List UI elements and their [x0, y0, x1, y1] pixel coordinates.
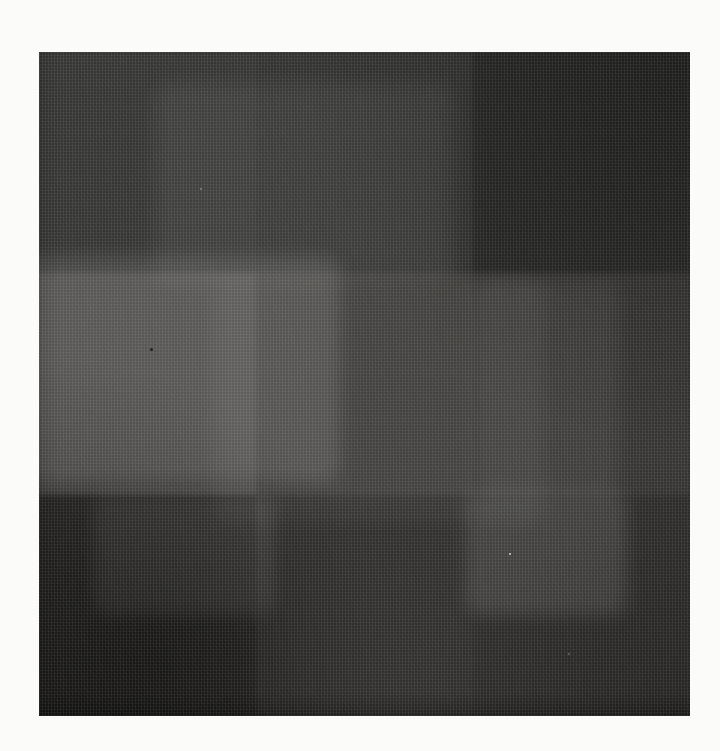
paint-speck [568, 653, 570, 655]
paint-speck [509, 553, 511, 555]
paint-speck [200, 188, 202, 190]
page-background [0, 0, 720, 751]
canvas-weave-texture [39, 52, 690, 716]
paint-speck [150, 348, 153, 351]
painting-photograph [39, 52, 690, 716]
